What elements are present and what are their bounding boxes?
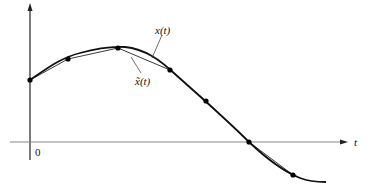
y-axis-arrow-icon [28,3,33,11]
approx-label: x̃(t) [135,76,150,87]
diagram-canvas [0,0,372,195]
t-axis-label: t [354,137,357,148]
signal-curve [30,47,326,182]
t-axis-arrow-icon [340,140,348,145]
curve-label: x(t) [155,25,170,36]
approx-label-leader [131,57,141,73]
approx-curve [30,48,293,175]
sampled-signal-diagram: x(t) x̃(t) t 0 [0,0,372,195]
origin-label: 0 [35,147,41,158]
curve-label-leader [152,35,162,58]
sample-points [27,45,295,177]
